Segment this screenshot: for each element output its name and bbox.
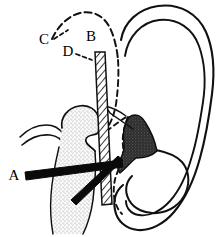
figure-canvas: A B C D (0, 0, 224, 237)
label-c: C (39, 31, 49, 47)
anatomical-figure: A B C D (0, 0, 224, 237)
label-a: A (9, 167, 20, 183)
label-d: D (63, 43, 74, 59)
label-b: B (86, 28, 96, 44)
